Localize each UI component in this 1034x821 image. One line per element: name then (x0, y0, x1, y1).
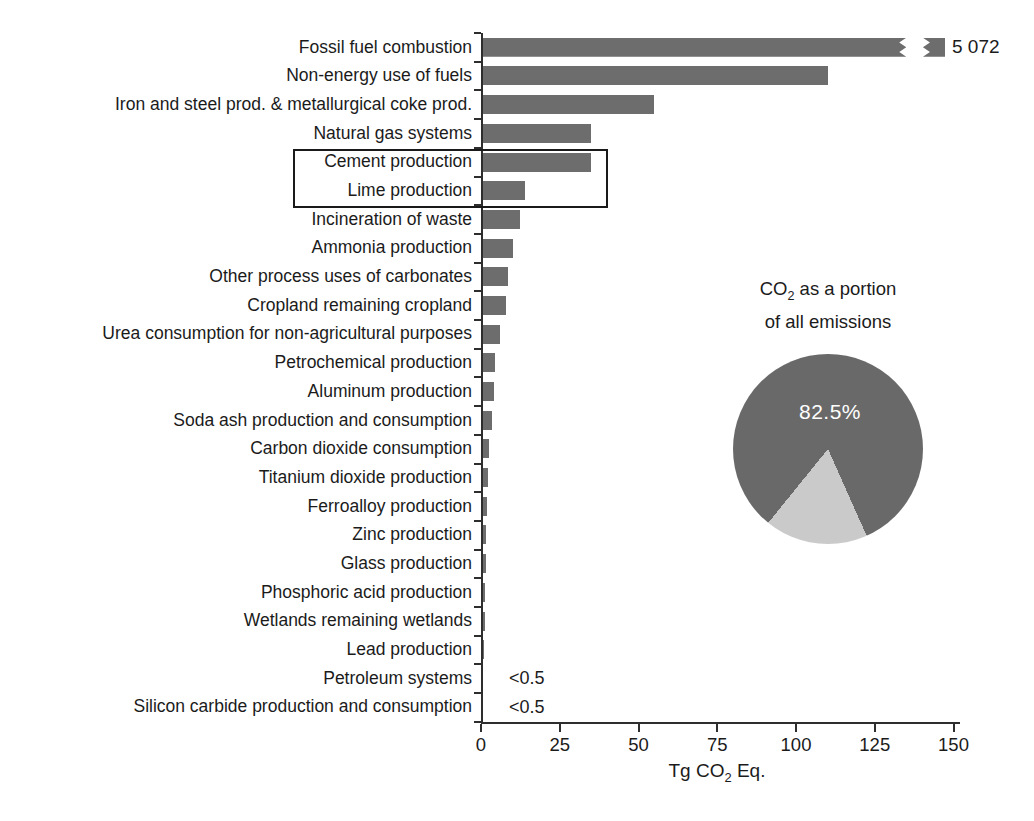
x-axis-line (481, 722, 960, 724)
bar-row: Lead production (0, 635, 1034, 664)
y-axis-tick (474, 89, 481, 91)
x-axis-tick (480, 724, 482, 732)
bar-plot-cell (481, 521, 1034, 550)
category-label: Wetlands remaining wetlands (0, 612, 481, 630)
bar-plot-cell (481, 578, 1034, 607)
x-axis-title-subscript: 2 (724, 770, 731, 785)
small-value-label: <0.5 (509, 697, 545, 718)
y-axis-tick (474, 32, 481, 34)
category-label: Incineration of waste (0, 211, 481, 229)
bar (481, 353, 495, 372)
y-axis-tick (474, 577, 481, 579)
y-axis-tick (474, 663, 481, 665)
category-label: Silicon carbide production and consumpti… (0, 698, 481, 716)
pie-chart: 82.5% (733, 354, 923, 544)
x-axis-title-text: Tg CO (669, 760, 725, 781)
bar-truncated-segment (923, 38, 945, 57)
x-axis-tick (716, 724, 718, 732)
bar-row: Non-energy use of fuels (0, 62, 1034, 91)
category-label: Ammonia production (0, 239, 481, 257)
bar (481, 325, 500, 344)
y-axis-tick (474, 549, 481, 551)
bar-row: Glass production (0, 549, 1034, 578)
y-axis-tick (474, 520, 481, 522)
bar-row: Wetlands remaining wetlands (0, 607, 1034, 636)
y-axis-tick (474, 319, 481, 321)
bar (481, 124, 591, 143)
y-axis-tick (474, 434, 481, 436)
bar (481, 239, 513, 258)
bar-plot-cell: <0.5 (481, 693, 1034, 722)
bar-plot-cell (481, 90, 1034, 119)
bar-row: Iron and steel prod. & metallurgical cok… (0, 90, 1034, 119)
bar-plot-cell (481, 62, 1034, 91)
y-axis-tick (474, 606, 481, 608)
bar-plot-cell (481, 607, 1034, 636)
bar (481, 267, 508, 286)
bar-plot-cell: 5 072 (481, 33, 1034, 62)
bar-plot-cell (481, 234, 1034, 263)
x-axis-tick-label: 150 (924, 734, 984, 756)
category-label: Petroleum systems (0, 670, 481, 688)
bar (481, 95, 654, 114)
y-axis-tick (474, 376, 481, 378)
x-axis-title: Tg CO2 Eq. (617, 760, 817, 785)
category-label: Glass production (0, 555, 481, 573)
category-label: Carbon dioxide consumption (0, 440, 481, 458)
y-axis-tick (474, 463, 481, 465)
category-label: Non-energy use of fuels (0, 67, 481, 85)
pie-title-line2: of all emissions (703, 309, 953, 335)
pie-title: CO2 as a portion of all emissions (703, 276, 953, 335)
bar-row: Phosphoric acid production (0, 578, 1034, 607)
bar-truncated-main (481, 38, 906, 57)
category-label: Iron and steel prod. & metallurgical cok… (0, 96, 481, 114)
bar-row: Fossil fuel combustion5 072 (0, 33, 1034, 62)
bar-row: Silicon carbide production and consumpti… (0, 693, 1034, 722)
x-axis-tick-label: 125 (845, 734, 905, 756)
x-axis-tick (559, 724, 561, 732)
y-axis-line (481, 33, 483, 723)
y-axis-tick (474, 290, 481, 292)
y-axis-tick (474, 262, 481, 264)
y-axis-tick (474, 635, 481, 637)
x-axis-tick-label: 25 (530, 734, 590, 756)
category-label: Urea consumption for non-agricultural pu… (0, 325, 481, 343)
x-axis-tick-label: 100 (766, 734, 826, 756)
bar (481, 66, 828, 85)
pie-inset: CO2 as a portion of all emissions 82.5% (703, 276, 953, 335)
bar-plot-cell (481, 635, 1034, 664)
bar-plot-cell: <0.5 (481, 664, 1034, 693)
category-label: Cropland remaining cropland (0, 297, 481, 315)
bar-row: Natural gas systems (0, 119, 1034, 148)
bar-plot-cell (481, 549, 1034, 578)
category-label: Other process uses of carbonates (0, 268, 481, 286)
category-label: Zinc production (0, 526, 481, 544)
category-label: Soda ash production and consumption (0, 412, 481, 430)
x-axis-tick (874, 724, 876, 732)
bar-plot-cell (481, 119, 1034, 148)
category-label: Ferroalloy production (0, 498, 481, 516)
bar-plot-cell (481, 205, 1034, 234)
category-label: Lead production (0, 641, 481, 659)
y-axis-tick (474, 405, 481, 407)
x-axis-tick (795, 724, 797, 732)
category-label: Titanium dioxide production (0, 469, 481, 487)
bar-row: Petroleum systems<0.5 (0, 664, 1034, 693)
small-value-label: <0.5 (509, 668, 545, 689)
category-label: Aluminum production (0, 383, 481, 401)
emissions-figure: Fossil fuel combustion5 072Non-energy us… (0, 0, 1034, 821)
y-axis-tick (474, 233, 481, 235)
bar-row: Incineration of waste (0, 205, 1034, 234)
y-axis-tick (474, 692, 481, 694)
bar-plot-cell (481, 349, 1034, 378)
bar (481, 296, 506, 315)
y-axis-tick (474, 61, 481, 63)
category-label: Fossil fuel combustion (0, 39, 481, 57)
x-axis-title-suffix: Eq. (732, 760, 766, 781)
x-axis-tick-label: 50 (609, 734, 669, 756)
y-axis-tick (474, 721, 481, 723)
pie-percentage-label: 82.5% (737, 400, 923, 424)
bar (481, 210, 520, 229)
y-axis-tick (474, 491, 481, 493)
y-axis-tick (474, 348, 481, 350)
